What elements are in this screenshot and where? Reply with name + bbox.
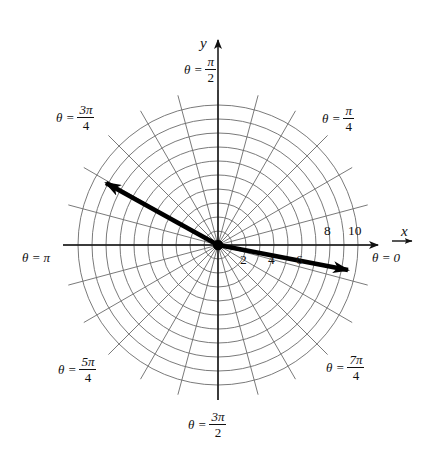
angle-label-theta-5pi-over-4: θ = 5π 4 (58, 355, 96, 385)
fraction: 7π 4 (347, 353, 364, 383)
y-axis-label: y (200, 36, 207, 51)
theta-symbol: θ = (22, 251, 40, 264)
theta-symbol: θ = (188, 418, 206, 431)
vector-lower-right (218, 245, 348, 270)
fraction: 3π 4 (77, 103, 94, 133)
radial-tick-8: 8 (324, 224, 331, 238)
theta-symbol: θ = (322, 112, 340, 125)
angle-label-theta-3pi-over-4: θ = 3π 4 (56, 103, 94, 133)
fraction: π 4 (343, 104, 354, 134)
fraction-numerator: 5π (79, 355, 96, 370)
fraction-numerator: 3π (209, 410, 226, 425)
angle-label-theta-pi: θ = π (22, 251, 50, 264)
fraction: 3π 2 (209, 410, 226, 440)
angle-label-theta-7pi-over-4: θ = 7π 4 (326, 353, 364, 383)
angle-label-theta-0: θ = 0 (372, 251, 400, 264)
vectors-group (106, 183, 348, 270)
polar-diagram-page: y x 2 4 6 8 10 θ = 0 θ = π 4 θ = π 2 θ =… (0, 0, 434, 455)
theta-symbol: θ = (58, 363, 76, 376)
fraction: 5π 4 (79, 355, 96, 385)
fraction: π 2 (205, 55, 216, 85)
fraction-denominator: 2 (213, 425, 224, 439)
fraction-denominator: 4 (343, 119, 354, 133)
fraction-denominator: 4 (351, 368, 362, 382)
radial-tick-6: 6 (296, 253, 303, 267)
origin-dot (213, 240, 223, 250)
fraction-denominator: 4 (81, 118, 92, 132)
angle-value: 0 (393, 251, 400, 264)
angle-label-theta-3pi-over-2: θ = 3π 2 (188, 410, 226, 440)
radial-tick-2: 2 (240, 253, 247, 267)
radial-tick-10: 10 (348, 224, 362, 238)
theta-symbol: θ = (184, 63, 202, 76)
fraction-denominator: 4 (83, 370, 94, 384)
fraction-numerator: π (343, 104, 354, 119)
angle-label-theta-pi-over-2: θ = π 2 (184, 55, 216, 85)
vector-upper-left (106, 183, 218, 245)
fraction-numerator: 3π (77, 103, 94, 118)
angle-label-theta-pi-over-4: θ = π 4 (322, 104, 354, 134)
fraction-numerator: 7π (347, 353, 364, 368)
radial-tick-4: 4 (268, 253, 275, 267)
fraction-numerator: π (205, 55, 216, 70)
theta-symbol: θ = (326, 361, 344, 374)
x-axis-label: x (401, 224, 408, 239)
fraction-denominator: 2 (205, 70, 216, 84)
angle-value: π (43, 251, 50, 264)
cartesian-axes (63, 40, 378, 400)
theta-symbol: θ = (56, 111, 74, 124)
polar-plot-canvas (0, 0, 434, 455)
theta-symbol: θ = (372, 251, 390, 264)
